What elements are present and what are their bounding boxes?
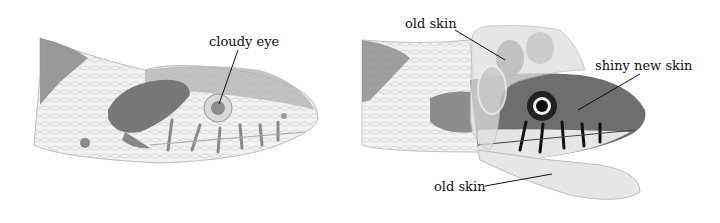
label-old-skin-top: old skin [405, 17, 457, 31]
label-old-skin-bottom: old skin [434, 180, 486, 194]
illustration-drawing [0, 0, 720, 223]
left-snake-head [34, 38, 318, 163]
label-shiny-new-skin: shiny new skin [595, 59, 692, 73]
right-snake-head [362, 26, 645, 200]
snake-shedding-illustration: cloudy eye old skin shiny new skin old s… [0, 0, 720, 223]
label-cloudy-eye: cloudy eye [209, 35, 279, 49]
